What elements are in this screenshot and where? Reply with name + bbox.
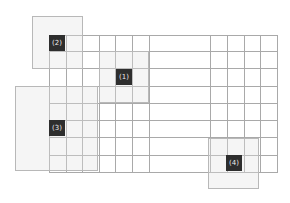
- region-label-2: (2): [49, 35, 65, 51]
- grid-row-line: [49, 68, 278, 69]
- grid-column-line: [277, 35, 278, 173]
- grid-row-line: [49, 51, 278, 52]
- region-label-3: (3): [49, 120, 65, 136]
- grid-column-line: [260, 35, 261, 173]
- grid-row-line: [49, 35, 278, 36]
- region-label-1: (1): [116, 69, 132, 85]
- grid-column-line: [149, 35, 150, 173]
- region-label-4: (4): [226, 155, 242, 171]
- grid-diagram: (1) (2) (3) (4): [0, 0, 290, 203]
